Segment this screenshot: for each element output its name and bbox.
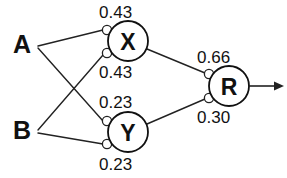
weight-label-a-to-y: 0.23 xyxy=(99,93,132,112)
node-y-label: Y xyxy=(120,120,135,146)
edge-b-to-y xyxy=(38,133,103,144)
nodes-group: X Y R xyxy=(108,21,249,152)
input-label-a: A xyxy=(13,30,31,58)
weight-label-b-to-y: 0.23 xyxy=(99,155,132,174)
edge-b-to-x xyxy=(38,55,103,130)
input-label-b: B xyxy=(13,116,31,144)
output-arrowhead-icon xyxy=(274,82,284,91)
node-x-label: X xyxy=(120,29,136,55)
weight-label-a-to-x: 0.43 xyxy=(99,3,132,22)
output-arrow-group xyxy=(249,82,284,91)
inputs-group: A B xyxy=(13,30,31,144)
node-r-label: R xyxy=(221,74,238,100)
weight-label-b-to-x: 0.43 xyxy=(99,63,132,82)
weight-label-y-to-r: 0.30 xyxy=(197,108,230,127)
network-canvas: X Y R A B 0.43 0.43 0.23 0.23 0.66 0.30 xyxy=(0,0,287,178)
edge-a-to-x xyxy=(38,30,103,46)
weight-label-x-to-r: 0.66 xyxy=(197,48,230,67)
neural-network-diagram: X Y R A B 0.43 0.43 0.23 0.23 0.66 0.30 xyxy=(0,0,287,178)
edge-a-to-y xyxy=(38,48,103,121)
